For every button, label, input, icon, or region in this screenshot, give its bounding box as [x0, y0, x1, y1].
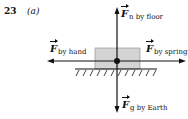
figure: 23 (a) Fn by floor: [0, 0, 188, 119]
gravity-force-label: Fg by Earth: [122, 100, 167, 111]
floor-hatching: [76, 70, 156, 76]
normal-force-arrowhead-icon: [115, 7, 120, 14]
spring-force-arrowhead-icon: [179, 59, 186, 64]
hand-force-arrowhead-icon: [47, 59, 54, 64]
spring-force-label: Fby spring: [146, 44, 187, 55]
hand-force-label: Fby hand: [50, 44, 86, 55]
normal-force-label: Fn by floor: [121, 9, 163, 20]
center-of-mass-dot: [114, 58, 120, 64]
gravity-force-arrowhead-icon: [115, 106, 120, 113]
